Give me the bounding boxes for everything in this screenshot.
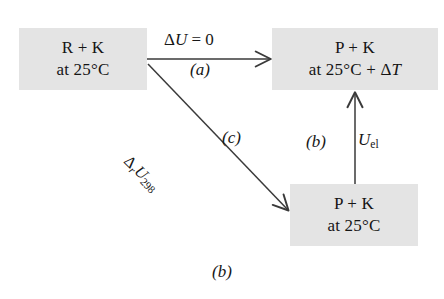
box-products-hot-delta-t-symbol: T xyxy=(392,60,402,79)
box-products-hot: P + K at 25°C + ΔT xyxy=(272,28,438,90)
box-products-cool-line2: at 25°C xyxy=(327,215,380,237)
box-reactants-line1: R + K xyxy=(62,37,105,59)
u-el-symbol: U xyxy=(358,130,370,149)
delta-u-value: = 0 xyxy=(187,30,214,49)
box-products-cool-line1: P + K xyxy=(334,193,374,215)
label-delta-u: ΔU = 0 xyxy=(164,30,214,50)
label-u-el: Uel xyxy=(358,130,379,151)
arrow-diagonal-line xyxy=(148,64,288,210)
figure-caption: (b) xyxy=(0,262,444,282)
box-reactants-line2: at 25°C xyxy=(56,59,109,81)
label-step-a: (a) xyxy=(190,60,210,80)
thermochemical-cycle-figure: R + K at 25°C P + K at 25°C + ΔT P + K a… xyxy=(0,0,444,299)
delta-symbol: Δ xyxy=(164,30,175,49)
box-reactants-line2-text: at 25°C xyxy=(56,60,109,79)
u-el-subscript: el xyxy=(370,138,378,151)
box-products-hot-line2-text: at 25°C + Δ xyxy=(309,60,392,79)
box-reactants: R + K at 25°C xyxy=(19,28,147,90)
label-step-b: (b) xyxy=(306,132,326,152)
box-products-hot-line1: P + K xyxy=(335,37,375,59)
box-products-hot-line2: at 25°C + ΔT xyxy=(309,59,402,81)
internal-energy-symbol: U xyxy=(175,30,187,49)
box-products-cool-line2-text: at 25°C xyxy=(327,216,380,235)
label-step-c: (c) xyxy=(222,128,241,148)
box-products-cool: P + K at 25°C xyxy=(290,184,418,246)
